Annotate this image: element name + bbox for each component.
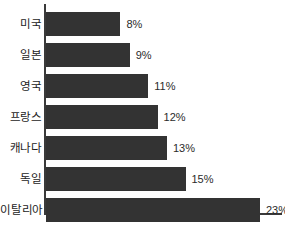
category-label: 영국 xyxy=(0,74,42,98)
bar-row: 일본 9% xyxy=(0,43,285,74)
bar-value-label: 11% xyxy=(154,74,175,98)
bar-value-label: 8% xyxy=(126,12,142,36)
bar-row: 영국 11% xyxy=(0,74,285,105)
category-label: 일본 xyxy=(0,43,42,67)
bar-fill xyxy=(46,43,130,67)
category-label: 미국 xyxy=(0,12,42,36)
bar-track: 15% xyxy=(46,167,285,191)
bar-track: 12% xyxy=(46,105,285,129)
bar-row: 독일 15% xyxy=(0,167,285,198)
bar-track: 23% xyxy=(46,198,285,222)
bar-rows: 미국 8% 일본 9% 영국 11% 프랑스 12% xyxy=(0,12,285,229)
bar-track: 13% xyxy=(46,136,285,160)
category-label: 이탈리아 xyxy=(0,198,42,222)
bar-row: 프랑스 12% xyxy=(0,105,285,136)
bar-fill xyxy=(46,12,120,36)
bar-value-label: 23% xyxy=(266,198,285,222)
bar-fill xyxy=(46,198,260,222)
bar-fill xyxy=(46,74,148,98)
bar-row: 캐나다 13% xyxy=(0,136,285,167)
bar-chart: 미국 8% 일본 9% 영국 11% 프랑스 12% xyxy=(0,0,285,229)
bar-row: 이탈리아 23% xyxy=(0,198,285,229)
category-label: 캐나다 xyxy=(0,136,42,160)
bar-track: 11% xyxy=(46,74,285,98)
category-label: 프랑스 xyxy=(0,105,42,129)
bar-track: 9% xyxy=(46,43,285,67)
bar-fill xyxy=(46,136,167,160)
bar-fill xyxy=(46,167,186,191)
category-label: 독일 xyxy=(0,167,42,191)
bar-value-label: 9% xyxy=(136,43,152,67)
bar-value-label: 13% xyxy=(173,136,195,160)
bar-track: 8% xyxy=(46,12,285,36)
bar-value-label: 12% xyxy=(164,105,186,129)
bar-row: 미국 8% xyxy=(0,12,285,43)
bar-fill xyxy=(46,105,158,129)
bar-value-label: 15% xyxy=(192,167,214,191)
